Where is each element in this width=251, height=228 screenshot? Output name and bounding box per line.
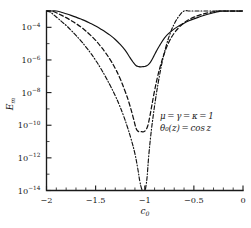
x-tick-label: 0 bbox=[240, 195, 245, 205]
annotation-parameters: μ = γ = κ = 1 bbox=[160, 111, 214, 121]
y-axis-title-sub: m bbox=[9, 98, 16, 104]
x-tick-label: −0.5 bbox=[184, 195, 204, 205]
line-chart: 10−410−610−810−1010−1210−14 −2−1.5−1−0.5… bbox=[0, 0, 251, 228]
x-tick-label: −2 bbox=[40, 195, 52, 205]
x-tick-label: −1.5 bbox=[86, 195, 106, 205]
x-axis-title-sub: 0 bbox=[146, 210, 150, 217]
x-tick-label: −1 bbox=[139, 195, 151, 205]
figure-panel: 10−410−610−810−1010−1210−14 −2−1.5−1−0.5… bbox=[0, 0, 251, 228]
annotation-initial-condition: θ₀(z) = cos z bbox=[160, 123, 212, 133]
